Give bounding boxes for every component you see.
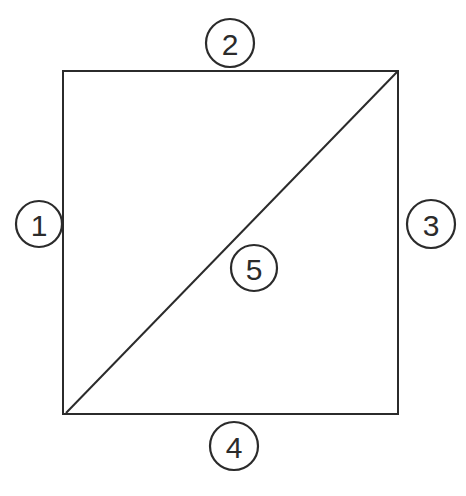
callout-1-label: 1 bbox=[31, 209, 48, 242]
callout-3: 3 bbox=[407, 200, 455, 248]
callout-4: 4 bbox=[210, 422, 258, 470]
callout-2: 2 bbox=[206, 19, 254, 67]
callout-2-label: 2 bbox=[222, 28, 239, 61]
diagram-canvas: 1 2 3 4 5 bbox=[0, 0, 466, 496]
callout-5: 5 bbox=[231, 245, 277, 291]
callout-4-label: 4 bbox=[226, 431, 243, 464]
callout-5-label: 5 bbox=[246, 253, 263, 286]
geometry-diagram: 1 2 3 4 5 bbox=[0, 0, 466, 496]
callout-1: 1 bbox=[16, 201, 62, 247]
callout-3-label: 3 bbox=[423, 209, 440, 242]
diagonal-line bbox=[66, 72, 397, 413]
